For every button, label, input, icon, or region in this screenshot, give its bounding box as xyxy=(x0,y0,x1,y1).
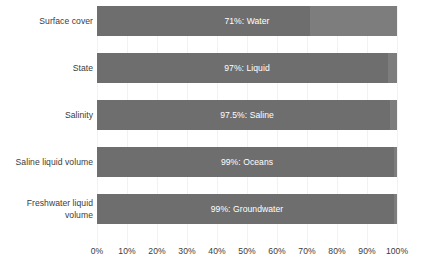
chart-row: State97%: Liquid xyxy=(0,47,421,94)
bar-track: 99%: Oceans xyxy=(97,147,397,177)
bar-track: 97%: Liquid xyxy=(97,53,397,83)
category-label-line: Saline liquid volume xyxy=(0,157,93,168)
category-label: Freshwater liquidvolume xyxy=(0,198,93,221)
category-label-line: volume xyxy=(0,210,93,222)
x-axis-tick-label: 100% xyxy=(386,246,408,256)
chart-row: Salinity97.5%: Saline xyxy=(0,94,421,141)
x-axis-tick-label: 40% xyxy=(208,246,225,256)
category-label-line: State xyxy=(0,63,93,74)
bar-track: 71%: Water xyxy=(97,6,397,36)
x-axis-tick-label: 90% xyxy=(358,246,375,256)
bar-track: 99%: Groundwater xyxy=(97,194,397,224)
x-axis-tick-label: 70% xyxy=(298,246,315,256)
bar-track: 97.5%: Saline xyxy=(97,100,397,130)
bar-value-label: 97%: Liquid xyxy=(97,53,397,83)
x-axis-tick-label: 10% xyxy=(118,246,135,256)
chart-row: Saline liquid volume99%: Oceans xyxy=(0,141,421,188)
stacked-bar-chart: Surface cover71%: WaterState97%: LiquidS… xyxy=(0,0,421,276)
category-label-line: Salinity xyxy=(0,110,93,121)
category-label: State xyxy=(0,63,93,74)
chart-row: Freshwater liquidvolume99%: Groundwater xyxy=(0,188,421,235)
bar-value-label: 97.5%: Saline xyxy=(97,100,397,130)
x-axis-tick-label: 0% xyxy=(91,246,104,256)
x-axis-tick-label: 80% xyxy=(328,246,345,256)
category-label: Surface cover xyxy=(0,16,93,27)
chart-plot-area: Surface cover71%: WaterState97%: LiquidS… xyxy=(0,0,421,235)
bar-value-label: 71%: Water xyxy=(97,6,397,36)
category-label-line: Surface cover xyxy=(0,16,93,27)
category-label: Saline liquid volume xyxy=(0,157,93,168)
x-axis-tick-label: 30% xyxy=(178,246,195,256)
bar-value-label: 99%: Groundwater xyxy=(97,194,397,224)
category-label-line: Freshwater liquid xyxy=(0,198,93,210)
x-axis-tick-label: 20% xyxy=(148,246,165,256)
x-axis: 0%10%20%30%40%50%60%70%80%90%100% xyxy=(97,246,397,266)
x-axis-tick-label: 50% xyxy=(238,246,255,256)
category-label: Salinity xyxy=(0,110,93,121)
bar-value-label: 99%: Oceans xyxy=(97,147,397,177)
x-axis-tick-label: 60% xyxy=(268,246,285,256)
chart-row: Surface cover71%: Water xyxy=(0,0,421,47)
